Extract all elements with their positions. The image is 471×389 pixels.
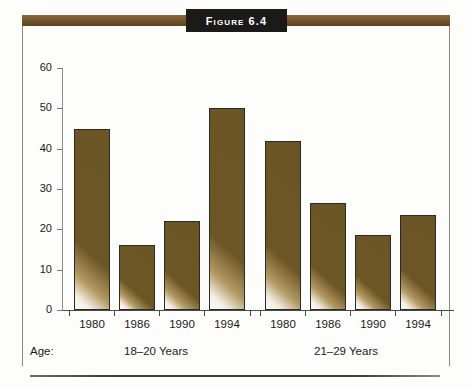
y-axis-tick [57,310,63,311]
y-axis-tick [57,108,63,109]
y-axis-tick-label: 10 [20,263,52,275]
y-axis-tick-label: 0 [20,303,52,315]
y-axis-tick-label: 30 [20,182,52,194]
plot-area: 0102030405060198019861990199419801986199… [22,40,450,340]
age-axis-label: Age: [30,345,54,357]
x-axis-tick [250,311,251,316]
y-axis-tick-label: 40 [20,142,52,154]
bar-1990-group-2 [355,235,391,310]
figure-title-plaque: Figure 6.4 [186,9,287,32]
x-axis-tick-label: 1994 [198,318,256,330]
bar-1980-group-1 [74,129,110,311]
group-label-18-20: 18–20 Years [96,345,216,357]
x-axis-tick [114,311,115,316]
x-axis-tick [159,311,160,316]
x-axis-tick [69,311,70,316]
x-axis-tick [441,311,442,316]
y-axis-tick [57,270,63,271]
figure-container: Figure 6.4 01020304050601980198619901994… [0,0,471,389]
x-axis-tick-label: 1994 [389,318,447,330]
y-axis-tick [57,229,63,230]
x-axis-tick [260,311,261,316]
x-axis-tick [305,311,306,316]
bottom-divider [30,375,440,377]
page-title: Figure 6.4 [206,15,267,27]
bar-1994-group-2 [400,215,436,310]
bar-1986-group-2 [310,203,346,310]
bar-1994-group-1 [209,108,245,310]
bar-1990-group-1 [164,221,200,310]
y-axis-tick [57,68,63,69]
y-axis-tick-label: 50 [20,101,52,113]
x-axis-tick [350,311,351,316]
y-axis-tick [57,189,63,190]
group-label-21-29: 21–29 Years [286,345,406,357]
x-axis-tick [395,311,396,316]
y-axis-tick [57,149,63,150]
bar-1986-group-1 [119,245,155,310]
bar-1980-group-2 [265,141,301,310]
y-axis-tick-label: 20 [20,222,52,234]
y-axis-tick-label: 60 [20,61,52,73]
x-axis-tick [204,311,205,316]
